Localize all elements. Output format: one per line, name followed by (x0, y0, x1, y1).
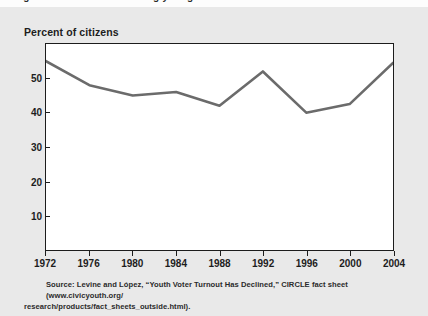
y-axis-tick-mark (45, 78, 50, 79)
y-axis-tick-mark (45, 147, 50, 148)
x-axis-tick-label: 2004 (383, 258, 405, 269)
source-note-line-1: Source: Levine and López, “Youth Voter T… (24, 279, 408, 301)
y-axis-tick-label: 40 (16, 107, 42, 118)
x-axis-tick-mark (307, 251, 308, 256)
page-top-crop: Figure 1 Voter turnout among young citiz… (0, 0, 428, 7)
x-axis-tick-mark (220, 251, 221, 256)
x-axis-tick-mark (45, 251, 46, 256)
figure-panel: Percent of citizens 1020304050 197219761… (0, 7, 428, 316)
x-axis-tick-mark (132, 251, 133, 256)
y-axis-tick-mark (45, 216, 50, 217)
turnout-line-series (46, 61, 393, 113)
cropped-caption-text: Figure 1 Voter turnout among young citiz… (14, 0, 235, 2)
x-axis-tick-label: 1996 (296, 258, 318, 269)
y-axis-tick-mark (45, 112, 50, 113)
x-axis-tick-label: 1988 (208, 258, 230, 269)
x-axis-tick-mark (176, 251, 177, 256)
y-axis-tick-label: 30 (16, 142, 42, 153)
x-axis-tick-label: 1980 (121, 258, 143, 269)
x-axis-tick-label: 1976 (78, 258, 100, 269)
y-axis-tick-label: 20 (16, 176, 42, 187)
x-axis-tick-mark (350, 251, 351, 256)
source-note-line-2: research/products/fact_sheets_outside.ht… (24, 301, 408, 312)
plot-area (45, 43, 394, 251)
y-axis-tick-label: 10 (16, 211, 42, 222)
y-axis-tick-label: 50 (16, 72, 42, 83)
y-axis-labels: 1020304050 (12, 43, 42, 251)
y-axis-title: Percent of citizens (24, 26, 119, 38)
source-note: Source: Levine and López, “Youth Voter T… (24, 279, 408, 312)
x-axis-tick-label: 2000 (339, 258, 361, 269)
x-axis-tick-mark (89, 251, 90, 256)
x-axis-tick-label: 1992 (252, 258, 274, 269)
x-axis-tick-mark (394, 251, 395, 256)
x-axis-tick-mark (263, 251, 264, 256)
x-axis-tick-label: 1984 (165, 258, 187, 269)
line-chart-svg (46, 44, 393, 250)
y-axis-tick-mark (45, 182, 50, 183)
x-axis-tick-label: 1972 (34, 258, 56, 269)
